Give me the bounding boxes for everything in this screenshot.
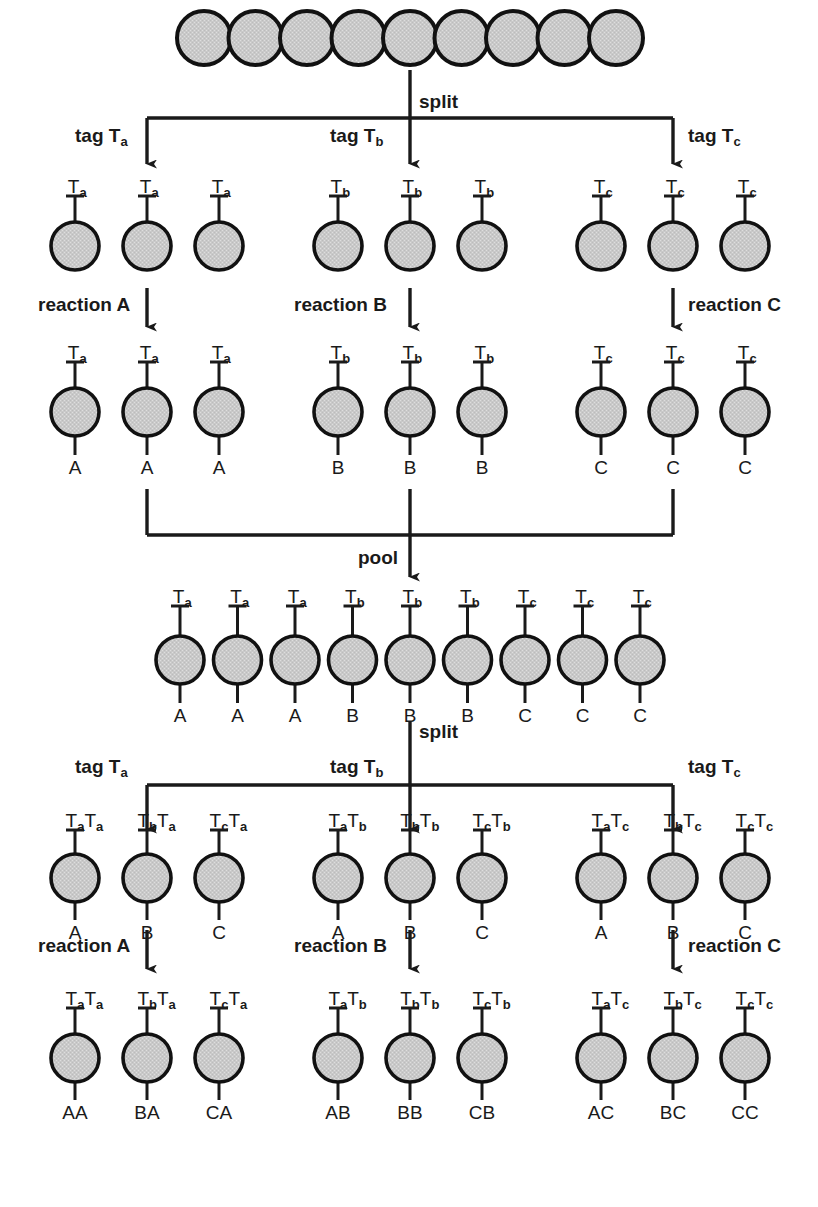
bead [51, 1034, 99, 1082]
bead [51, 388, 99, 436]
tag-subscript: b [414, 185, 422, 200]
reaction-c-label-2-text: reaction C [688, 935, 781, 956]
tag-base: T [754, 810, 766, 831]
tag-base: T [328, 810, 340, 831]
tag-base: T [610, 988, 622, 1009]
bead-tag-label: TaTa [66, 989, 104, 1011]
tag-base: T [683, 988, 695, 1009]
tag-tc-label-2: tag Tc [688, 757, 741, 779]
tag-subscript: b [414, 351, 422, 366]
bead-tag-label: TbTa [137, 989, 175, 1011]
tag-ta-label-2: tag Ta [75, 757, 128, 779]
tag-tc-label-2-text: tag T [688, 756, 733, 777]
bead-product-label: AB [325, 1103, 350, 1122]
bead [721, 222, 769, 270]
bead [721, 1034, 769, 1082]
bead-tag-label: Ta [212, 177, 231, 199]
tag-subscript: b [359, 997, 367, 1012]
bead-product-label: C [594, 458, 608, 477]
bead-tag-label: Tc [633, 587, 652, 609]
bead-product-label: B [476, 458, 489, 477]
tag-subscript: b [486, 351, 494, 366]
tag-subscript: a [184, 595, 191, 610]
tag-subscript: c [484, 997, 491, 1012]
tag-base: T [575, 586, 587, 607]
tag-subscript: c [749, 351, 756, 366]
tag-ta-label-1-text: tag T [75, 125, 120, 146]
tag-subscript: b [431, 997, 439, 1012]
tag-base: T [738, 342, 750, 363]
tag-subscript: b [149, 997, 157, 1012]
tag-base: T [66, 810, 78, 831]
tag-subscript: a [79, 185, 86, 200]
tag-base: T [491, 810, 503, 831]
tag-subscript: b [342, 351, 350, 366]
bead-product-label: A [141, 458, 154, 477]
tag-subscript: b [675, 997, 683, 1012]
bead-tag-label: Tc [666, 343, 685, 365]
bead-tag-label: Ta [230, 587, 249, 609]
bead-product-label: C [475, 923, 489, 942]
tag-tc-label-1: tag Tc [688, 126, 741, 148]
bead [577, 388, 625, 436]
pool-label-1: pool [358, 548, 398, 567]
tag-base: T [137, 810, 149, 831]
bead-tag-label: Tb [345, 587, 365, 609]
tag-subscript: b [431, 819, 439, 834]
tag-base: T [212, 342, 224, 363]
bead-tag-label: TcTb [472, 989, 510, 1011]
tag-base: T [460, 586, 472, 607]
bead-tag-label: Ta [288, 587, 307, 609]
bead-product-label: A [231, 706, 244, 725]
bead [123, 1034, 171, 1082]
bead-product-label: BC [660, 1103, 686, 1122]
split-label-1: split [419, 92, 458, 111]
tag-subscript: c [695, 997, 702, 1012]
tag-base: T [592, 810, 604, 831]
tag-subscript: a [169, 819, 176, 834]
tag-subscript: a [603, 819, 610, 834]
bead [559, 636, 607, 684]
starting-bead [538, 11, 592, 65]
bead-tag-label: Tc [594, 177, 613, 199]
bead-product-label: AC [588, 1103, 614, 1122]
tag-base: T [420, 988, 432, 1009]
bead [386, 854, 434, 902]
tag-base: T [663, 810, 675, 831]
tag-base: T [666, 176, 678, 197]
bead-product-label: B [332, 458, 345, 477]
tag-subscript: c [484, 819, 491, 834]
tag-subscript: c [749, 185, 756, 200]
tag-subscript: b [414, 595, 422, 610]
tag-subscript: c [529, 595, 536, 610]
bead-product-label: CB [469, 1103, 495, 1122]
reaction-a-label-2-text: reaction A [38, 935, 130, 956]
bead [195, 388, 243, 436]
bead-tag-label: Tc [575, 587, 594, 609]
tag-base: T [157, 988, 169, 1009]
bead [195, 854, 243, 902]
bead [577, 1034, 625, 1082]
tag-base: T [230, 586, 242, 607]
reaction-a-label-1: reaction A [38, 295, 130, 314]
tag-subscript: a [77, 997, 84, 1012]
bead-tag-label: Tc [518, 587, 537, 609]
tag-subscript: b [412, 819, 420, 834]
bead-tag-label: Ta [140, 343, 159, 365]
bead [616, 636, 664, 684]
tag-base: T [491, 988, 503, 1009]
bead-tag-label: Tb [331, 343, 351, 365]
bead-product-label: B [346, 706, 359, 725]
bead [271, 636, 319, 684]
bead-tag-label: Tc [738, 177, 757, 199]
tag-base: T [84, 988, 96, 1009]
tag-base: T [173, 586, 185, 607]
tag-base: T [736, 810, 748, 831]
tag-tb-label-2: tag Tb [330, 757, 383, 779]
bead-product-label: C [666, 458, 680, 477]
bead [458, 854, 506, 902]
tag-base: T [472, 810, 484, 831]
bead-tag-label: Ta [140, 177, 159, 199]
bead-product-label: AA [62, 1103, 87, 1122]
bead [386, 1034, 434, 1082]
